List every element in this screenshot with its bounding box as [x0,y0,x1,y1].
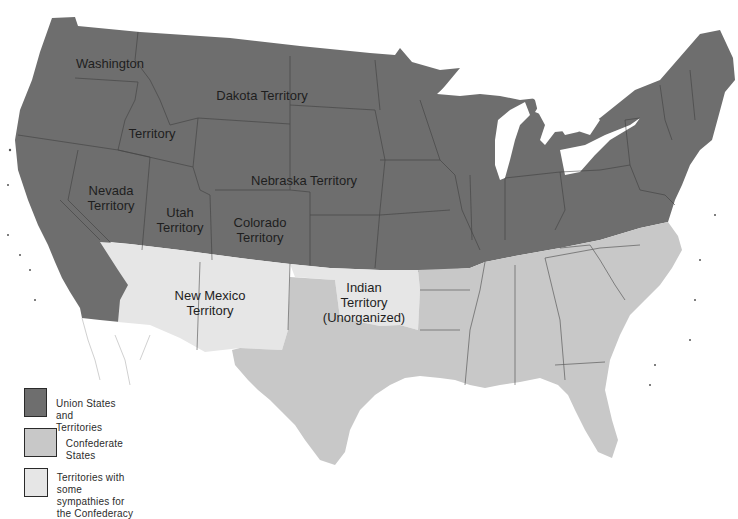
label-idaho-territory: Territory [129,126,176,141]
label-indian-territory: Indian Territory (Unorganized) [323,280,405,325]
label-nebraska-territory: Nebraska Territory [251,173,357,188]
legend-label-confederate: Confederate States [66,438,133,462]
label-colorado-territory: Colorado Territory [234,215,287,245]
label-dakota-territory: Dakota Territory [216,88,308,103]
union-swatch [24,388,47,417]
legend-label-sympathetic: Territories with some sympathies for the… [57,472,135,519]
label-nevada-territory: Nevada Territory [88,183,135,213]
legend-item-sympathetic: Territories with some sympathies for the… [24,468,135,519]
legend-item-confederate: Confederate States [24,428,133,462]
label-washington-territory: Washington [76,56,144,71]
confederate-swatch [24,428,57,457]
label-utah-territory: Utah Territory [157,205,204,235]
sympathetic-swatch [24,468,48,497]
mexico-coastline [82,318,150,385]
label-new-mexico-territory: New Mexico Territory [175,288,246,318]
